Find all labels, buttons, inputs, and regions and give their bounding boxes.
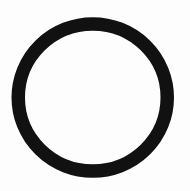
ring-icon bbox=[18, 24, 167, 171]
ring-svg bbox=[0, 0, 190, 191]
canvas: Black circular ring outline on white bac… bbox=[0, 0, 190, 191]
